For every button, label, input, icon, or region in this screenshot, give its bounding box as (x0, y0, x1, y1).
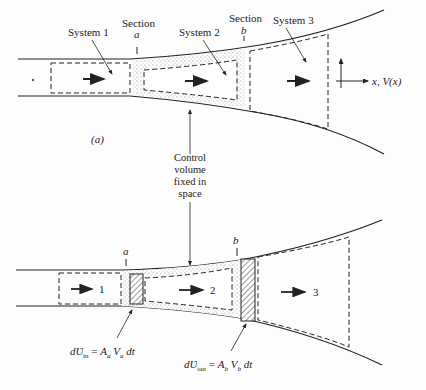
control-volume-callout: Control volume fixed in space (174, 110, 207, 265)
section-b-letter: b (233, 234, 239, 246)
region-1-label: 1 (99, 283, 105, 295)
dv-out-slab (241, 259, 255, 321)
panel-a: Section a Section b System 1 System 2 Sy… (18, 10, 402, 154)
section-b-letter: b (241, 24, 247, 36)
dv-out-equation: dƲout = Ab Vb dt (184, 358, 253, 373)
system-2-label: System 2 (179, 26, 220, 38)
panel-a-label: (a) (91, 133, 104, 146)
cv-line1: Control (174, 152, 206, 163)
duct-lower-wall (18, 96, 384, 154)
panel-b: 1 2 3 a b dƲin = Aa Va dt dƲout = Ab Vb … (16, 220, 382, 373)
dv-in-slab (130, 274, 143, 304)
section-a-letter: a (123, 245, 129, 257)
system-1-label: System 1 (68, 26, 109, 38)
axis-label: x, V(x) (371, 75, 402, 88)
duct-upper-wall (16, 220, 382, 270)
dv-in-equation: dƲin = Aa Va dt (70, 345, 136, 360)
cv-line2: volume (174, 164, 206, 175)
region-2-label: 2 (210, 284, 216, 296)
region-3-label: 3 (313, 286, 319, 298)
section-b-label: Section (229, 12, 262, 24)
control-volume-diagram: Section a Section b System 1 System 2 Sy… (0, 0, 426, 390)
system-3-label: System 3 (273, 14, 314, 26)
cv-line4: space (178, 188, 202, 199)
cv-line3: fixed in (174, 176, 207, 187)
section-a-letter: a (134, 28, 140, 40)
